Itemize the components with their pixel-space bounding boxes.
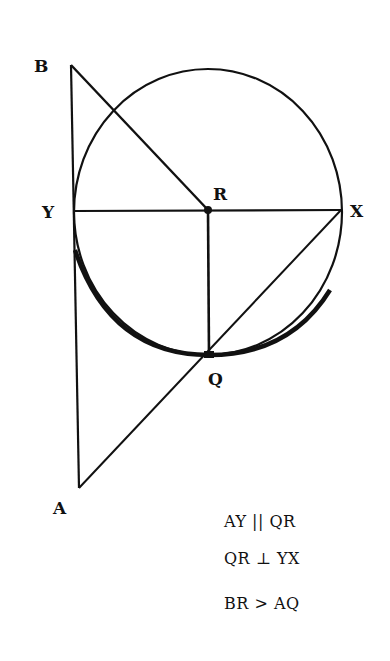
- label-Y: Y: [41, 202, 55, 222]
- segment-BA: [71, 65, 79, 488]
- note-parallel: AY || QR: [224, 512, 296, 531]
- segment-RQ: [208, 210, 209, 355]
- label-R: R: [213, 184, 228, 204]
- highlighted-arc: [75, 250, 330, 355]
- geometry-diagram: B Y R X Q A: [0, 0, 390, 661]
- note-inequality: BR > AQ: [224, 594, 300, 613]
- note-perpendicular: QR ⊥ YX: [224, 549, 300, 568]
- segment-BR: [71, 65, 208, 210]
- label-A: A: [52, 498, 67, 518]
- label-Q: Q: [208, 369, 223, 389]
- point-R: [204, 206, 212, 214]
- label-B: B: [34, 56, 48, 76]
- segment-XA: [79, 210, 341, 488]
- label-X: X: [350, 201, 364, 221]
- point-Q: [204, 351, 214, 358]
